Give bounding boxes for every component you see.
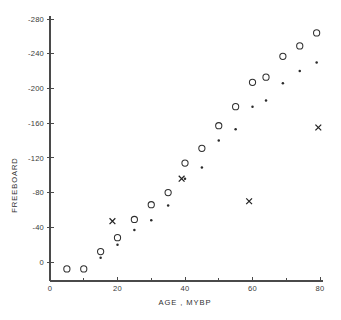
marker-dot: [218, 139, 221, 142]
x-tick-label: 80: [316, 284, 325, 293]
marker-open-circle: [233, 104, 239, 110]
x-tick-label: 20: [113, 284, 122, 293]
x-axis-title: AGE , MYBP: [159, 298, 212, 307]
marker-open-circle: [216, 123, 222, 129]
marker-open-circle: [64, 266, 70, 272]
marker-dot: [234, 128, 237, 131]
data-points: [64, 30, 321, 272]
marker-open-circle: [297, 43, 303, 49]
x-tick-label: 60: [248, 284, 257, 293]
y-tick-label: -80: [32, 188, 44, 197]
marker-open-circle: [98, 248, 104, 254]
marker-open-circle: [81, 266, 87, 272]
y-tick-label: -120: [28, 154, 44, 163]
axes: [50, 16, 323, 281]
y-tick-label: -240: [28, 49, 44, 58]
y-axis-title: FREEBOARD: [10, 157, 19, 212]
marker-dot: [201, 166, 204, 169]
marker-open-circle: [131, 216, 137, 222]
y-tick-label: -160: [28, 119, 44, 128]
marker-dot: [99, 256, 102, 259]
marker-cross: [110, 218, 116, 224]
marker-dot: [167, 204, 170, 207]
marker-open-circle: [165, 189, 171, 195]
marker-open-circle: [314, 30, 320, 36]
marker-cross: [246, 198, 252, 204]
y-tick-label: 0: [40, 258, 44, 267]
marker-dot: [282, 82, 285, 85]
marker-dot: [116, 243, 119, 246]
series-small-dot: [99, 61, 318, 259]
marker-open-circle: [114, 235, 120, 241]
marker-open-circle: [249, 79, 255, 85]
marker-dot: [315, 61, 318, 64]
scatter-plot-svg: 0-40-80-120-160-200-240-280020406080 AGE…: [0, 0, 341, 320]
marker-cross: [315, 125, 321, 131]
marker-open-circle: [263, 74, 269, 80]
series-cross: [110, 125, 322, 225]
marker-open-circle: [148, 202, 154, 208]
x-tick-label: 0: [48, 284, 52, 293]
y-tick-label: -200: [28, 84, 44, 93]
x-tick-label: 40: [181, 284, 190, 293]
marker-dot: [184, 177, 187, 180]
marker-open-circle: [199, 145, 205, 151]
y-tick-label: -280: [28, 15, 44, 24]
marker-cross: [179, 176, 185, 182]
y-tick-label: -40: [32, 223, 44, 232]
marker-dot: [265, 99, 268, 102]
tick-marks: [47, 19, 321, 281]
marker-dot: [133, 229, 136, 232]
marker-open-circle: [280, 53, 286, 59]
series-open-circle: [64, 30, 320, 272]
marker-open-circle: [182, 160, 188, 166]
marker-dot: [251, 105, 254, 108]
chart-figure: 0-40-80-120-160-200-240-280020406080 AGE…: [0, 0, 341, 320]
marker-dot: [150, 219, 153, 222]
marker-dot: [299, 70, 302, 73]
